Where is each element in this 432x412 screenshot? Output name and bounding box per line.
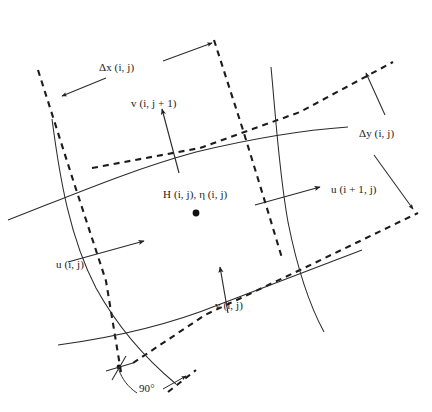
u-left-label: u (i, j) (56, 258, 84, 270)
angle-label: 90° (139, 382, 155, 394)
delta-y-label: Δy (i, j) (359, 127, 394, 139)
center-node-label: H (i, j), η (i, j) (163, 188, 227, 200)
gridline-j (58, 250, 362, 345)
v-top-arrow (162, 109, 179, 173)
dashed-bottom-edge (133, 213, 418, 363)
delta-x-label: Δx (i, j) (99, 61, 134, 73)
v-top-label: v (i, j + 1) (131, 97, 177, 109)
gridline-i (52, 119, 176, 384)
diagram-root: Δx (i, j) Δy (i, j) v (i, j + 1) v (i, j… (0, 0, 432, 412)
delta-y-bottom-leader (374, 155, 413, 209)
cell-center-node (193, 210, 200, 217)
solid-gridlines (8, 67, 362, 384)
dashed-top-edge (92, 62, 393, 168)
angle-leader-left (119, 370, 137, 393)
gridline-j-plus-1 (8, 127, 348, 220)
dashed-cell-frame (38, 40, 418, 372)
delta-x-right-leader (163, 43, 212, 61)
v-bottom-label: v (i, j) (215, 299, 243, 311)
angle-leader-right (163, 376, 186, 389)
dashed-left-edge (38, 70, 121, 372)
diagram-canvas (0, 0, 432, 412)
gridline-i-plus-1 (271, 67, 324, 332)
u-right-label: u (i + 1, j) (331, 183, 377, 195)
u-right-arrow (255, 187, 320, 205)
delta-y-top-leader (366, 73, 385, 115)
delta-x-left-leader (62, 78, 106, 96)
